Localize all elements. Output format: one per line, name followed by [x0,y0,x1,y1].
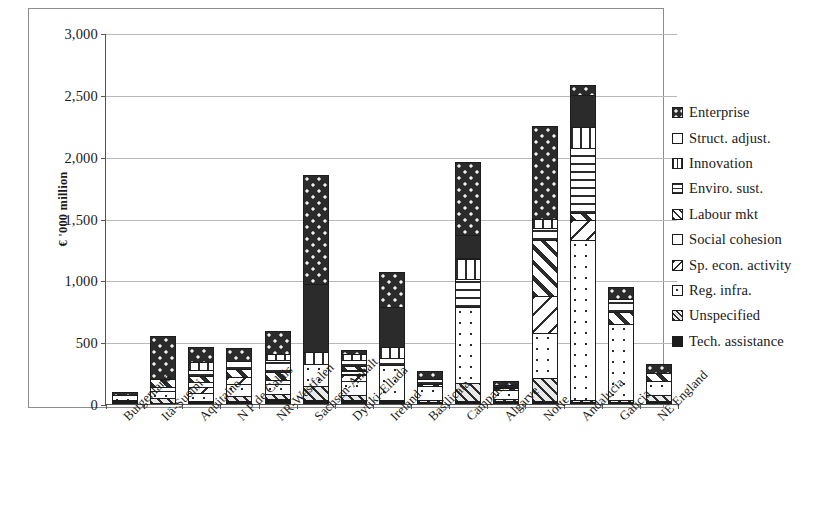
bar-segment-struct [570,95,596,127]
legend-item[interactable]: Reg. infra. [672,278,822,303]
chart-legend: EnterpriseStruct. adjust.InnovationEnvir… [672,100,822,354]
bar-segment-innovation [455,259,481,281]
bar-segment-spec [570,220,596,240]
legend-swatch-icon [672,107,683,118]
bar-segment-enterprise [379,272,405,308]
bar-slot [182,34,220,404]
bar-slot [487,34,525,404]
bar-slot [411,34,449,404]
legend-swatch-icon [672,260,683,271]
stacked-bar[interactable] [532,127,558,404]
legend-item[interactable]: Labour mkt [672,202,822,227]
bar-slot [335,34,373,404]
bar-slot [297,34,335,404]
bar-slot [144,34,182,404]
bar-slot [602,34,640,404]
bar-segment-enterprise [303,175,329,285]
bar-segment-struct [303,284,329,353]
legend-item[interactable]: Innovation [672,151,822,176]
legend-label: Sp. econ. activity [689,257,791,274]
legend-label: Enviro. sust. [689,180,763,197]
bar-slot [220,34,258,404]
stacked-bar[interactable] [455,163,481,404]
y-tick-label: 1,500 [64,211,98,228]
legend-item[interactable]: Struct. adjust. [672,125,822,150]
legend-label: Tech. assistance [689,333,784,350]
y-tick-label: 0 [91,397,98,414]
y-axis-title: € '000 million [56,171,71,246]
legend-item[interactable]: Unspecified [672,303,822,328]
bar-segment-spec [532,296,558,334]
chart-figure: € '000 million 05001,0001,5002,0002,5003… [0,0,830,512]
legend-swatch-icon [672,310,683,321]
y-tick-label: 500 [76,335,98,352]
bar-segment-enterprise [226,348,252,362]
bar-segment-enviro [608,299,634,313]
legend-swatch-icon [672,336,683,347]
plot-area: 05001,0001,5002,0002,5003,000 [105,34,677,405]
bar-segment-innovation [570,127,596,149]
stacked-bar[interactable] [570,85,596,404]
y-tick-label: 2,500 [64,87,98,104]
legend-label: Labour mkt [689,206,758,223]
bar-slot [449,34,487,404]
bar-slot [564,34,602,404]
legend-swatch-icon [672,133,683,144]
bar-slot [373,34,411,404]
bar-segment-reginfra [455,307,481,384]
legend-swatch-icon [672,234,683,245]
bar-segment-struct [379,307,405,348]
x-tick-mark [106,404,107,409]
legend-swatch-icon [672,158,683,169]
legend-swatch-icon [672,285,683,296]
bar-segment-enterprise [532,126,558,220]
bar-segment-labour [532,240,558,297]
legend-item[interactable]: Enviro. sust. [672,176,822,201]
legend-label: Unspecified [689,307,760,324]
legend-label: Innovation [689,155,753,172]
bar-segment-enviro [570,148,596,214]
bar-slot [106,34,144,404]
legend-swatch-icon [672,183,683,194]
legend-swatch-icon [672,209,683,220]
legend-label: Reg. infra. [689,282,752,299]
bar-segment-enviro [455,279,481,308]
legend-item[interactable]: Enterprise [672,100,822,125]
legend-label: Enterprise [689,104,750,121]
bar-segment-reginfra [532,333,558,379]
bar-segment-reginfra [570,240,596,401]
bar-slot [259,34,297,404]
bar-slot [525,34,563,404]
y-tick-label: 1,000 [64,273,98,290]
y-tick-label: 2,000 [64,149,98,166]
bar-series-layer [106,34,677,404]
y-tick-label: 3,000 [64,26,98,43]
legend-item[interactable]: Sp. econ. activity [672,252,822,277]
bar-segment-labour [608,312,634,325]
bar-segment-enviro [532,228,558,241]
chart-frame: € '000 million 05001,0001,5002,0002,5003… [28,8,664,408]
legend-item[interactable]: Social cohesion [672,227,822,252]
legend-label: Social cohesion [689,231,782,248]
bar-segment-enterprise [455,162,481,236]
bar-segment-enterprise [188,347,214,363]
bar-segment-struct [455,235,481,259]
legend-label: Struct. adjust. [689,130,771,147]
bar-segment-enterprise [608,287,634,301]
legend-item[interactable]: Tech. assistance [672,329,822,354]
bar-segment-enterprise [265,331,291,355]
